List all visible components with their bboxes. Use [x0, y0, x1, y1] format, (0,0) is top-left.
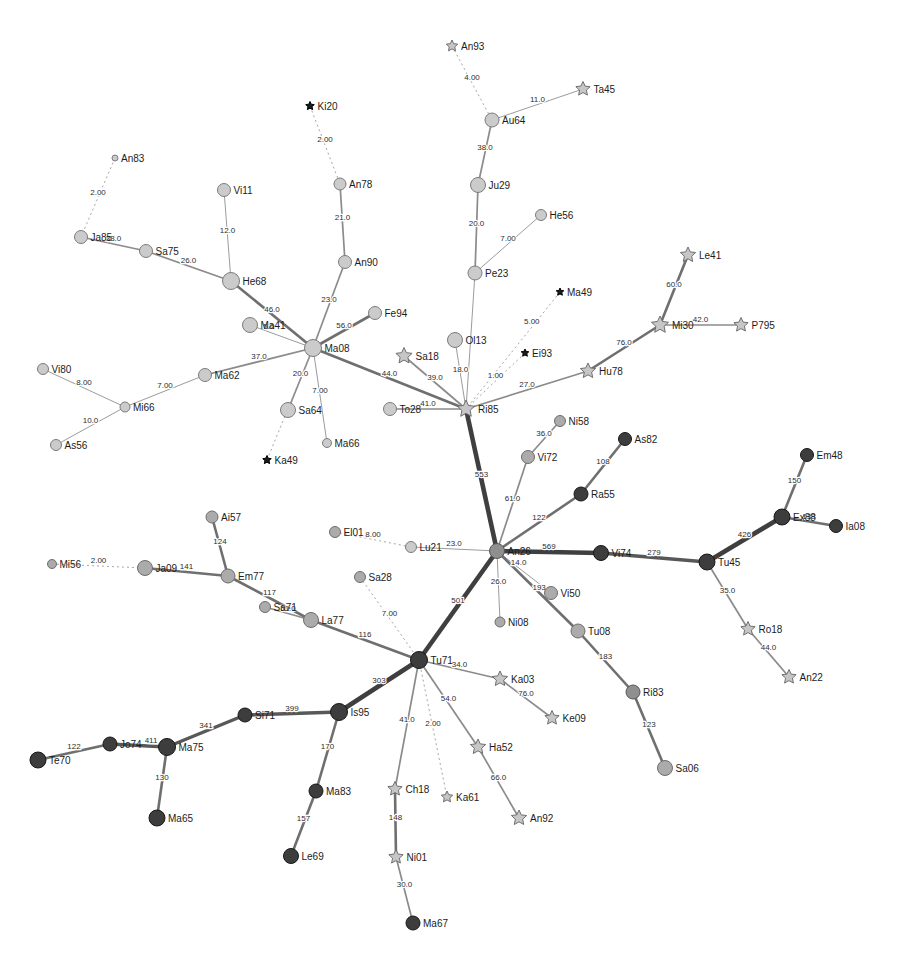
- edge-An26-Tu71: [419, 551, 497, 660]
- node-Ma49[interactable]: Ma49: [556, 287, 592, 298]
- edge-Em77-La77: [228, 576, 311, 620]
- edge-weight-To28-Ri85: 41.0: [420, 399, 436, 408]
- node-Ra55[interactable]: Ra55: [574, 487, 615, 501]
- node-Sa18[interactable]: Sa18: [396, 348, 439, 363]
- node-Sa75[interactable]: Sa75: [140, 245, 180, 258]
- node-Ke09[interactable]: Ke09: [545, 711, 586, 725]
- node-Ni08[interactable]: Ni08: [495, 617, 529, 628]
- node-Em48[interactable]: Em48: [801, 449, 844, 462]
- node-Ni01[interactable]: Ni01: [389, 850, 428, 864]
- node-An26[interactable]: An26: [490, 544, 532, 559]
- node-Tu45[interactable]: Tu45: [699, 554, 741, 570]
- node-circle-icon: [574, 487, 588, 501]
- node-Ri85[interactable]: Ri85: [457, 400, 499, 416]
- graph-canvas: 4.0011.038.020.07.002.0021.023.02.0033.0…: [0, 0, 902, 967]
- node-label-Pe23: Pe23: [485, 268, 509, 279]
- node-Hu78[interactable]: Hu78: [580, 363, 623, 377]
- node-Ha52[interactable]: Ha52: [470, 739, 513, 753]
- node-Lu21[interactable]: Lu21: [406, 542, 443, 553]
- node-label-He68: He68: [243, 276, 267, 287]
- node-Vi50[interactable]: Vi50: [545, 587, 581, 600]
- node-Sa71[interactable]: Sa71: [260, 602, 298, 613]
- node-An93[interactable]: An93: [446, 40, 485, 52]
- node-circle-icon: [206, 511, 218, 523]
- node-star-icon: [545, 711, 559, 725]
- node-circle-icon: [658, 761, 673, 776]
- node-An83[interactable]: An83: [112, 153, 145, 164]
- node-Is95[interactable]: Is95: [331, 704, 370, 721]
- node-Sa28[interactable]: Sa28: [355, 572, 393, 583]
- edge-weight-Ju29-Pe23: 20.0: [469, 219, 485, 228]
- node-Ma41[interactable]: Ma41: [243, 318, 286, 333]
- node-Vi11[interactable]: Vi11: [218, 184, 254, 197]
- node-To28[interactable]: To28: [384, 403, 422, 416]
- node-Vi80[interactable]: Vi80: [38, 364, 72, 375]
- node-Si71[interactable]: Si71: [238, 708, 275, 722]
- node-An92[interactable]: An92: [511, 810, 553, 824]
- node-As56[interactable]: As56: [51, 440, 88, 451]
- node-Ch18[interactable]: Ch18: [388, 782, 430, 796]
- node-Pe23[interactable]: Pe23: [468, 266, 509, 280]
- node-label-Mi66: Mi66: [133, 402, 155, 413]
- node-Ai57[interactable]: Ai57: [206, 511, 241, 523]
- node-label-Ni01: Ni01: [407, 852, 428, 863]
- edge-weight-Sa64-Ma08: 20.0: [293, 369, 309, 378]
- node-Ja09[interactable]: Ja09: [138, 561, 178, 576]
- node-Ka61[interactable]: Ka61: [441, 791, 480, 803]
- node-Fe94[interactable]: Fe94: [369, 307, 408, 320]
- node-He56[interactable]: He56: [536, 210, 574, 221]
- node-Mi56[interactable]: Mi56: [48, 559, 82, 570]
- node-Ro18[interactable]: Ro18: [741, 622, 783, 636]
- node-Ma66[interactable]: Ma66: [323, 438, 360, 449]
- node-star-icon: [580, 363, 595, 377]
- node-Ka03[interactable]: Ka03: [492, 671, 534, 685]
- node-He68[interactable]: He68: [223, 273, 267, 290]
- node-Vi74[interactable]: Vi74: [594, 546, 632, 561]
- node-La77[interactable]: La77: [304, 613, 345, 628]
- node-Sa64[interactable]: Sa64: [281, 403, 323, 418]
- node-Ma62[interactable]: Ma62: [199, 369, 240, 382]
- node-Ia08[interactable]: Ia08: [830, 520, 866, 533]
- node-Ki20[interactable]: Ki20: [306, 101, 338, 112]
- node-label-Ki20: Ki20: [318, 101, 338, 112]
- node-Ol13[interactable]: Ol13: [448, 333, 488, 348]
- node-Ma67[interactable]: Ma67: [406, 916, 448, 930]
- node-Ma75[interactable]: Ma75: [159, 739, 204, 756]
- node-Ni58[interactable]: Ni58: [555, 416, 590, 427]
- node-label-Is95: Is95: [351, 707, 370, 718]
- node-black-star-icon: [263, 456, 272, 464]
- node-As82[interactable]: As82: [619, 433, 658, 446]
- node-Le41[interactable]: Le41: [680, 247, 721, 261]
- node-star-icon: [741, 622, 755, 636]
- node-Ka49[interactable]: Ka49: [263, 455, 299, 466]
- edge-weight-Hu78-Ri85: 27.0: [519, 380, 535, 389]
- node-circle-icon: [112, 155, 118, 161]
- node-circle-icon: [75, 231, 88, 244]
- node-Ri83[interactable]: Ri83: [626, 685, 664, 699]
- node-An22[interactable]: An22: [782, 670, 823, 684]
- node-Ma65[interactable]: Ma65: [149, 810, 193, 826]
- node-Te70[interactable]: Te70: [30, 752, 71, 768]
- node-P795[interactable]: P795: [734, 318, 775, 332]
- node-Le69[interactable]: Le69: [284, 849, 325, 864]
- node-El01[interactable]: El01: [330, 527, 364, 538]
- node-circle-icon: [830, 520, 843, 533]
- node-Ju29[interactable]: Ju29: [471, 178, 511, 193]
- node-Ma83[interactable]: Ma83: [309, 784, 351, 798]
- node-Em77[interactable]: Em77: [221, 569, 265, 583]
- node-Ta45[interactable]: Ta45: [576, 82, 616, 96]
- node-star-icon: [457, 400, 474, 416]
- node-Sa06[interactable]: Sa06: [658, 761, 700, 776]
- node-Au64[interactable]: Au64: [485, 113, 526, 127]
- node-Mi66[interactable]: Mi66: [120, 402, 155, 413]
- node-Tu08[interactable]: Tu08: [571, 624, 611, 638]
- node-An90[interactable]: An90: [339, 256, 379, 269]
- node-circle-icon: [309, 784, 323, 798]
- node-Mi30[interactable]: Mi30: [651, 316, 694, 332]
- node-An78[interactable]: An78: [334, 178, 373, 190]
- node-Ja85[interactable]: Ja85: [75, 231, 113, 244]
- node-Jo74[interactable]: Jo74: [103, 737, 142, 751]
- node-Ei93[interactable]: Ei93: [521, 348, 552, 359]
- node-circle-icon: [490, 544, 505, 559]
- node-Vi72[interactable]: Vi72: [522, 451, 558, 464]
